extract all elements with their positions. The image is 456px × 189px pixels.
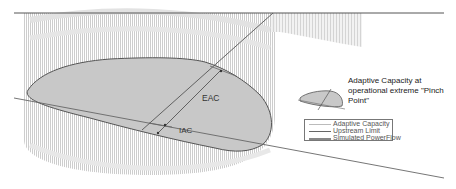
- pinch-point-annotation: Adaptive Capacity at operational extreme…: [348, 76, 448, 106]
- eac-label: EAC: [202, 93, 219, 103]
- pinch-point-line-1: Adaptive Capacity at: [348, 76, 448, 86]
- legend-item-simulated-powerflow: Simulated PowerFlow: [305, 135, 392, 142]
- legend-swatch-thin: [309, 124, 331, 125]
- pinch-point-line-3: Point": [348, 96, 448, 106]
- legend-swatch-double: [309, 138, 331, 140]
- pinch-point-line-2: operational extreme "Pinch: [348, 86, 448, 96]
- pinch-point-shape: [298, 89, 345, 110]
- legend-swatch-solid: [309, 131, 331, 132]
- iac-label: IAC: [179, 126, 192, 135]
- legend: Adaptive Capacity Upstream Limit Simulat…: [304, 119, 393, 141]
